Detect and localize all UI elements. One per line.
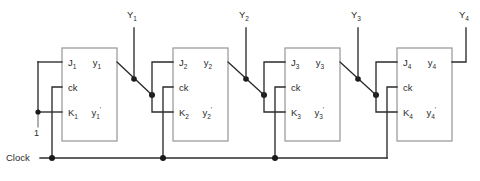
junction-clock-1	[49, 155, 55, 161]
junction-clock-2	[160, 155, 166, 161]
wire-clock-to-ck2	[163, 87, 173, 158]
junction-clock-3	[272, 155, 278, 161]
input-label-Y1: Y1	[127, 9, 137, 22]
wire-clock-to-ck4	[387, 87, 397, 158]
port-label-ck2: ck	[179, 82, 189, 93]
clock-label: Clock	[6, 152, 30, 163]
logic-one-label: 1	[34, 128, 39, 138]
input-label-Y4: Y4	[459, 9, 469, 22]
wire-Y4-output	[452, 28, 466, 62]
port-label-ck4: ck	[403, 82, 413, 93]
input-label-Y3: Y3	[351, 9, 361, 22]
input-label-Y2: Y2	[239, 9, 249, 22]
wire-clock-to-ck1	[52, 87, 62, 158]
junction-logic-one	[35, 109, 40, 114]
port-label-ck3: ck	[291, 82, 301, 93]
circuit-diagram: Clock 1 Y1 Y2 Y3 Y4 J1 ck K1 y1 y1' J2 c…	[0, 0, 480, 181]
port-label-ck1: ck	[68, 82, 78, 93]
wire-clock-to-ck3	[275, 87, 285, 158]
